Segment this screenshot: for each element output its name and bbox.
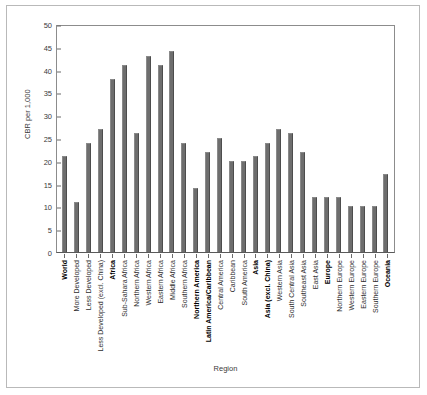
y-tick-label: 15 [44,182,57,190]
bar-slot [309,26,321,252]
bar-slot [130,26,142,252]
x-tick-slot: Europe [321,254,333,358]
x-axis-title: Region [56,364,395,373]
y-tick-mark [57,48,61,49]
bar-slot [344,26,356,252]
bar[interactable] [86,143,91,252]
bar-slot [332,26,344,252]
y-tick-mark [57,94,61,95]
x-tick-label: More Developed [72,260,79,311]
bar-slot [297,26,309,252]
bar-slot [107,26,119,252]
x-tick-mark [387,254,388,258]
bar[interactable] [324,197,329,252]
y-tick-mark [57,140,61,141]
x-tick-mark [232,254,233,258]
y-tick-label: 45 [44,45,57,53]
bar-slot [356,26,368,252]
x-tick-label: Northern America [192,260,199,319]
x-tick-slot: Latin America/Caribbean [202,254,214,358]
x-tick-slot: Asia [250,254,262,358]
x-tick-mark [363,254,364,258]
x-tick-label: Caribbean [228,260,235,292]
x-tick-label: Eastern Europe [360,260,367,309]
x-tick-mark [351,254,352,258]
x-tick-mark [327,254,328,258]
bar-slot [71,26,83,252]
x-axis-labels: WorldMore DevelopedLess DevelopedLess De… [56,254,395,358]
bar-slot [166,26,178,252]
bar[interactable] [229,161,234,252]
bar[interactable] [372,206,377,252]
x-tick-slot: Southern Africa [178,254,190,358]
bar[interactable] [169,51,174,252]
x-tick-mark [136,254,137,258]
x-tick-slot: World [58,254,70,358]
bar[interactable] [134,133,139,252]
bar-slot [261,26,273,252]
bar[interactable] [74,202,79,252]
bar[interactable] [360,206,365,252]
y-axis-title: CBR per 1,000 [23,89,32,139]
x-tick-slot: Caribbean [226,254,238,358]
x-tick-label: Northern Africa [132,260,139,307]
bar[interactable] [110,79,115,252]
bar[interactable] [383,174,388,252]
x-tick-mark [220,254,221,258]
x-tick-mark [184,254,185,258]
y-tick-label: 30 [44,113,57,121]
x-tick-slot: Asia (excl. China) [261,254,273,358]
bar-slot [321,26,333,252]
x-tick-label: Asia [252,260,259,275]
bar[interactable] [205,152,210,252]
x-tick-label: Southeast Asia [300,260,307,307]
bar[interactable] [265,143,270,252]
x-tick-slot: More Developed [70,254,82,358]
bar[interactable] [181,143,186,252]
bar[interactable] [288,133,293,252]
x-tick-slot: Eastern Europe [357,254,369,358]
bar[interactable] [193,188,198,252]
bar[interactable] [276,129,281,252]
bar[interactable] [158,65,163,252]
bar[interactable] [217,138,222,252]
x-tick-label: East Asia [312,260,319,289]
x-tick-label: Western Asia [276,260,283,301]
bar[interactable] [348,206,353,252]
y-tick-mark [57,26,61,27]
y-tick-mark [57,231,61,232]
x-tick-label: Africa [108,260,115,280]
x-tick-mark [88,254,89,258]
bar[interactable] [122,65,127,252]
x-tick-label: Less Developed (excl. China) [96,260,103,351]
y-tick-mark [57,117,61,118]
x-tick-label: Southern Africa [180,260,187,308]
bar[interactable] [253,156,258,252]
bar[interactable] [146,56,151,252]
bar[interactable] [312,197,317,252]
bar-slot [83,26,95,252]
y-tick-mark [57,71,61,72]
bar[interactable] [241,161,246,252]
x-tick-label: Southern Europe [372,260,379,313]
x-tick-mark [339,254,340,258]
x-tick-slot: Africa [106,254,118,358]
x-tick-label: World [60,260,67,280]
x-tick-slot: Western Africa [142,254,154,358]
bar-slot [249,26,261,252]
x-tick-mark [172,254,173,258]
x-tick-mark [315,254,316,258]
x-tick-label: Asia (excl. China) [264,260,271,318]
x-tick-mark [196,254,197,258]
bar[interactable] [336,197,341,252]
bar-slot [237,26,249,252]
x-tick-label: Latin America/Caribbean [204,260,211,342]
bar[interactable] [98,129,103,252]
bar[interactable] [300,152,305,252]
x-tick-mark [208,254,209,258]
bar-slot [202,26,214,252]
x-tick-slot: South Central Asia [285,254,297,358]
y-tick-label: 50 [44,22,57,30]
bar[interactable] [62,156,67,252]
y-tick-label: 40 [44,68,57,76]
